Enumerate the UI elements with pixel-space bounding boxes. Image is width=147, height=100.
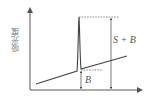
absorbance-curve — [36, 17, 127, 84]
signal-plus-background-label: S + B — [113, 34, 136, 45]
background-label: B — [85, 74, 91, 85]
y-axis-label: 吸光度 — [11, 28, 23, 52]
